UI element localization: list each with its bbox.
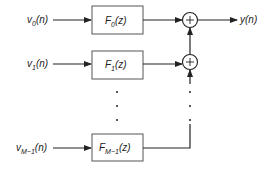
diagram-svg: v0(n) F0(z) y(n) v1(n) F1(z) vM−1(n) FM−… — [0, 0, 271, 171]
ellipsis-adders — [189, 91, 191, 121]
filter-bank-diagram: v0(n) F0(z) y(n) v1(n) F1(z) vM−1(n) FM−… — [0, 0, 271, 171]
input-label-m-1: vM−1(n) — [16, 142, 47, 155]
line-filter-m-1-to-adders — [143, 124, 190, 148]
input-label-1: v1(n) — [27, 58, 48, 71]
output-label: y(n) — [239, 14, 257, 25]
ellipsis-filters — [116, 91, 118, 121]
input-label-0: v0(n) — [27, 14, 48, 27]
